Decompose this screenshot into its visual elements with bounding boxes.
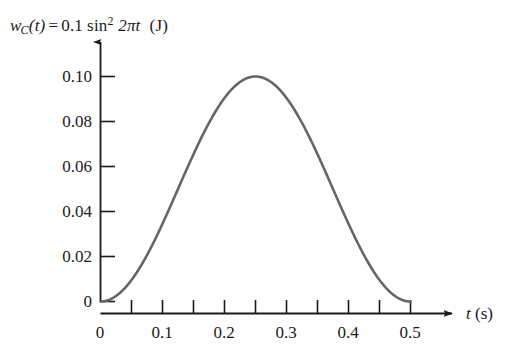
x-tick-label-0.5: 0.5 bbox=[390, 324, 430, 341]
x-tick-label-0.4: 0.4 bbox=[328, 324, 368, 341]
y-tick-label-0.06: 0.06 bbox=[28, 158, 92, 175]
x-axis-unit: (s) bbox=[475, 304, 493, 323]
y-tick-label-0.10: 0.10 bbox=[28, 68, 92, 85]
x-axis-title: t (s) bbox=[466, 305, 493, 322]
y-tick-label-0.04: 0.04 bbox=[28, 203, 92, 220]
y-tick-label-0.02: 0.02 bbox=[28, 248, 92, 265]
x-tick-label-0.3: 0.3 bbox=[266, 324, 306, 341]
y-tick-label-0: 0 bbox=[28, 293, 92, 310]
y-tick-label-0.08: 0.08 bbox=[28, 113, 92, 130]
y-axis-ticks bbox=[101, 77, 116, 302]
data-curve bbox=[101, 77, 411, 302]
x-tick-label-0.2: 0.2 bbox=[204, 324, 244, 341]
x-tick-label-0: 0 bbox=[80, 324, 120, 341]
x-axis-symbol: t bbox=[466, 304, 471, 323]
figure-container: wC(t)=0.1sin2 2πt(J) bbox=[0, 0, 516, 363]
x-tick-label-0.1: 0.1 bbox=[142, 324, 182, 341]
x-axis-ticks bbox=[132, 300, 411, 314]
